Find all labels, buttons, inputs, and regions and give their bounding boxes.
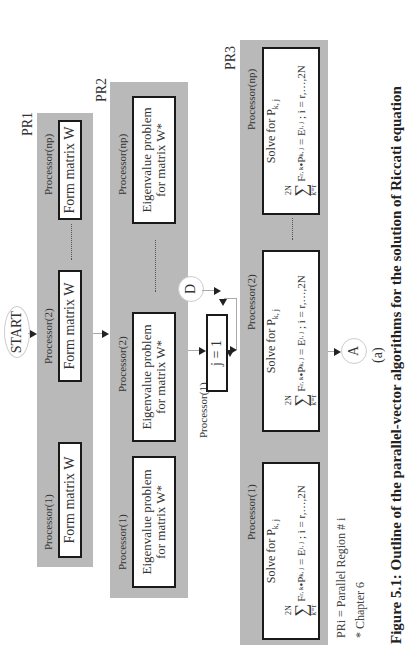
task-text: Form matrix W bbox=[62, 283, 78, 370]
legend: PRi = Parallel Region # i * Chapter 6 bbox=[334, 518, 368, 638]
pr3-processor-2-label: Processor(2) bbox=[245, 274, 257, 330]
init-j-box: j = 1 bbox=[206, 314, 228, 392]
pr3-processor-2-box: Solve for Pk, j 2N ∑ k=r Fr, k •Pk, j = … bbox=[262, 250, 320, 432]
sigma-icon: 2N ∑ k=r bbox=[284, 394, 318, 407]
task-text-line1: Eigenvalue problem bbox=[140, 324, 154, 429]
task-text: Form matrix W bbox=[62, 127, 78, 214]
pr3-processor-np-label: Processor(np) bbox=[245, 69, 257, 130]
pr1-processor-np-label: Processor(np) bbox=[42, 134, 54, 195]
task-text-line2: for matrix W* bbox=[154, 485, 168, 559]
task-text-line1: Eigenvalue problem bbox=[140, 469, 154, 574]
legend-footnote: * Chapter 6 bbox=[353, 518, 368, 638]
pr3-label: PR3 bbox=[223, 46, 239, 70]
pr3-processor-1-box: Solve for Pk, j 2N ∑ k=r Fr, k •Pk, j = … bbox=[262, 462, 320, 640]
start-node: START bbox=[4, 306, 30, 358]
pr2-processor-1-label: Processor(1) bbox=[116, 514, 128, 570]
loop-back-line-horizontal bbox=[236, 298, 237, 350]
task-text-line1: Eigenvalue problem bbox=[140, 107, 154, 212]
arrow-left-icon bbox=[226, 350, 234, 357]
pr1-processor-1-box: Form matrix W bbox=[58, 442, 82, 558]
connector-a: A bbox=[341, 338, 367, 364]
pr1-ellipsis bbox=[71, 224, 72, 260]
solve-equation: 2N ∑ k=r Fr, k •Pk, j = Ei, j ; i = r,…,… bbox=[284, 275, 318, 406]
arrow-down-icon bbox=[199, 347, 206, 355]
task-text-line2: for matrix W* bbox=[154, 123, 168, 197]
pr2-processor-2-box: Eigenvalue problem for matrix W* bbox=[132, 312, 176, 442]
pr3-processor-np-box: Solve for Pk, j 2N ∑ k=r Fr, k •Pk, j = … bbox=[262, 47, 320, 215]
subfigure-label: (a) bbox=[370, 347, 386, 363]
pr1-processor-1-label: Processor(1) bbox=[42, 494, 54, 550]
pr3-processor-1-label: Processor(1) bbox=[245, 484, 257, 540]
sigma-icon: 2N ∑ k=r bbox=[284, 184, 318, 197]
task-text-line2: for matrix W* bbox=[154, 340, 168, 414]
sigma-icon: 2N ∑ k=r bbox=[284, 604, 318, 617]
connector-d: D bbox=[178, 276, 204, 302]
pr2-processor-1-box: Eigenvalue problem for matrix W* bbox=[132, 456, 176, 588]
legend-pr-definition: PRi = Parallel Region # i bbox=[334, 518, 349, 638]
pr1-processor-2-label: Processor(2) bbox=[42, 308, 54, 364]
solve-title: Solve for Pk, j bbox=[264, 309, 280, 373]
pr2-ellipsis bbox=[155, 240, 156, 292]
task-text: j = 1 bbox=[209, 340, 225, 366]
rotated-diagram-canvas: START PR1 Processor(1) Form matrix W Pro… bbox=[0, 0, 408, 650]
solve-title: Solve for Pk, j bbox=[264, 519, 280, 583]
figure-caption: Figure 5.1: Outline of the parallel-vect… bbox=[388, 86, 405, 644]
solve-equation: 2N ∑ k=r Fr, k •Pk, j = Ei, j ; i = r,…,… bbox=[284, 485, 318, 616]
pr2-processor-2-label: Processor(2) bbox=[116, 336, 128, 392]
solve-title: Solve for Pk, j bbox=[264, 99, 280, 163]
start-label: START bbox=[9, 311, 25, 353]
pr3-ellipsis bbox=[292, 218, 293, 240]
pr2-processor-np-label: Processor(np) bbox=[116, 134, 128, 195]
pr1-label: PR1 bbox=[20, 112, 36, 136]
arrow-down-icon bbox=[334, 348, 341, 356]
connector-a-label: A bbox=[346, 346, 362, 356]
arrow-down-icon bbox=[30, 330, 37, 338]
pr1-processor-2-box: Form matrix W bbox=[58, 270, 82, 382]
pr1-processor-np-box: Form matrix W bbox=[58, 120, 82, 220]
arrow-down-icon bbox=[214, 287, 221, 295]
arrow-left-icon bbox=[219, 299, 227, 306]
task-text: Form matrix W bbox=[62, 457, 78, 544]
pr2-processor-np-box: Eigenvalue problem for matrix W* bbox=[132, 96, 176, 224]
connector-d-label: D bbox=[183, 284, 199, 294]
solve-equation: 2N ∑ k=r Fr, k •Pk, j = Ei, j ; i = r,…,… bbox=[284, 65, 318, 196]
arrow-down-icon bbox=[102, 330, 109, 338]
pr2-label: PR2 bbox=[94, 78, 110, 102]
